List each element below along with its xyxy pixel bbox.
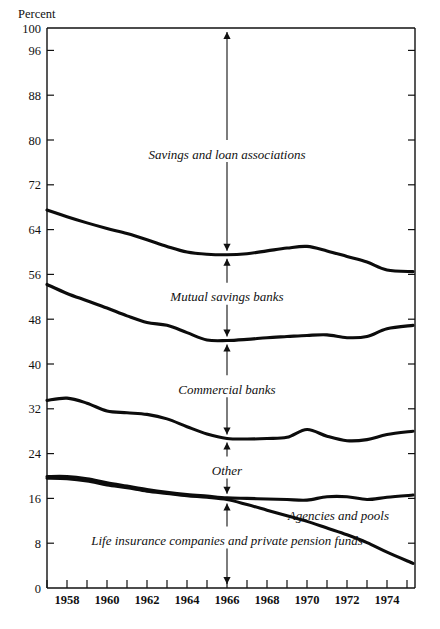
y-tick-label: 48 [29, 313, 42, 327]
arrow-head [223, 244, 230, 251]
x-tick-label: 1958 [55, 593, 80, 607]
y-tick-label: 80 [29, 134, 42, 148]
floating-label-agencies-and-pools: Agencies and pools [287, 508, 389, 523]
arrow-head [223, 427, 230, 434]
x-tick-label: 1962 [135, 593, 160, 607]
band-label-other: Other [212, 463, 243, 478]
x-tick-label: 1972 [335, 593, 360, 607]
arrow-head [223, 344, 230, 351]
x-tick-label: 1974 [375, 593, 401, 607]
arrow-head [223, 329, 230, 336]
band-label-mutual-savings-banks: Mutual savings banks [169, 289, 283, 304]
x-tick-label: 1960 [95, 593, 120, 607]
chart-container: Percent 081624324048566472808896100 1958… [0, 0, 440, 629]
x-tick-label: 1968 [255, 593, 280, 607]
band-label-savings-and-loan-associations: Savings and loan associations [148, 147, 305, 162]
y-tick-label: 24 [29, 447, 42, 461]
y-tick-label: 64 [29, 223, 42, 237]
floating-labels: Agencies and pools [287, 508, 389, 523]
y-tick-label: 96 [29, 44, 42, 58]
series-line-cumulative-top-boundary [47, 210, 413, 272]
series-line-cumulative-commercial-banks-boundary [47, 398, 413, 441]
x-tick-label: 1966 [215, 593, 240, 607]
x-tick-label: 1970 [295, 593, 320, 607]
band-label-commercial-banks: Commercial banks [178, 382, 275, 397]
y-tick-label: 56 [29, 268, 42, 282]
y-tick-label: 32 [29, 402, 42, 416]
arrow-head [223, 259, 230, 266]
axis-frame [47, 28, 415, 588]
arrow-head [223, 442, 230, 449]
y-tick-label: 0 [35, 582, 41, 596]
y-axis-title: Percent [18, 7, 56, 21]
arrow-head [223, 577, 230, 584]
y-tick-label: 100 [22, 22, 41, 36]
arrow-head [223, 32, 230, 39]
x-tick-label: 1964 [175, 593, 201, 607]
y-axis-title-group: Percent [18, 7, 56, 21]
y-tick-label: 72 [29, 178, 42, 192]
arrow-head [223, 487, 230, 494]
y-tick-label: 40 [29, 358, 42, 372]
y-tick-label: 8 [35, 537, 41, 551]
band-label-life-insurance-companies-and-private-pension-funds: Life insurance companies and private pen… [90, 533, 363, 548]
arrow-head [223, 504, 230, 511]
y-tick-label: 16 [29, 492, 42, 506]
series-line-cumulative-other-boundary [47, 476, 413, 500]
line-chart: Percent 081624324048566472808896100 1958… [0, 0, 440, 629]
x-axis-ticks: 195819601962196419661968197019721974 [47, 580, 407, 607]
y-tick-label: 88 [29, 89, 42, 103]
